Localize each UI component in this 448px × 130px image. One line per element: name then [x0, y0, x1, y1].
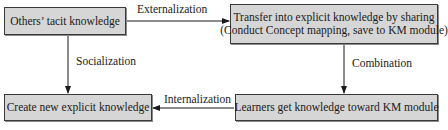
node-others-tacit-knowledge: Others’ tacit knowledge [4, 7, 126, 35]
node-label: Others’ tacit knowledge [10, 15, 120, 28]
node-label: Learners get knowledge toward KM module [234, 101, 438, 114]
node-create-new-explicit-knowledge: Create new explicit knowledge [4, 94, 152, 121]
node-label-line-1: Transfer into explicit knowledge by shar… [233, 11, 434, 24]
edge-label-externalization: Externalization [137, 3, 207, 16]
node-label: Create new explicit knowledge [7, 101, 150, 114]
node-label-line-2: (Conduct Concept mapping, save to KM mod… [220, 24, 448, 37]
edge-label-socialization: Socialization [76, 55, 136, 68]
edge-label-internalization: Internalization [164, 93, 231, 106]
edge-label-combination: Combination [352, 57, 412, 70]
node-transfer-explicit-knowledge: Transfer into explicit knowledge by shar… [230, 4, 438, 44]
node-learners-get-knowledge: Learners get knowledge toward KM module [235, 94, 438, 121]
